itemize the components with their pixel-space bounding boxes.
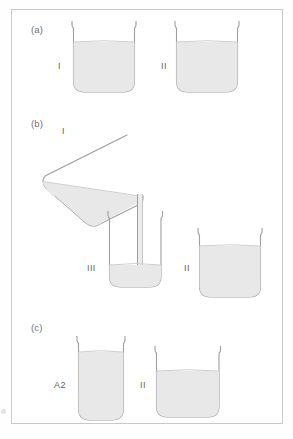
figure-frame: (a) I II (b) I bbox=[11, 9, 283, 424]
beaker-b-receiver bbox=[195, 228, 265, 306]
beaker-a-left bbox=[69, 21, 139, 99]
vessel-label-beaker-a-left: I bbox=[58, 61, 61, 71]
beaker-c-right bbox=[152, 346, 224, 426]
vessel-label-beaker-b-receiver: II bbox=[184, 263, 190, 273]
vessel-label-beaker-c-tall: A2 bbox=[54, 380, 66, 390]
panel-label-a: (a) bbox=[31, 24, 43, 35]
vessel-label-beaker-a-right: II bbox=[161, 61, 167, 71]
page-edge-mark bbox=[1, 409, 6, 414]
beaker-a-right bbox=[172, 21, 242, 99]
beaker-b-narrow bbox=[105, 211, 167, 295]
panel-label-c: (c) bbox=[31, 322, 43, 333]
vessel-label-beaker-c-right: II bbox=[140, 380, 146, 390]
beaker-c-tall bbox=[74, 336, 130, 428]
vessel-label-beaker-b-narrow: III bbox=[87, 263, 96, 273]
